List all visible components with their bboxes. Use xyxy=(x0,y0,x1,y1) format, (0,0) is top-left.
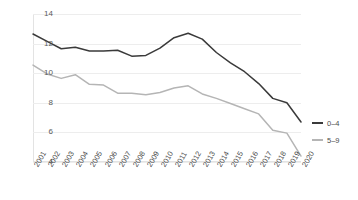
legend-item[interactable]: 0–4 xyxy=(312,118,358,128)
plot-area xyxy=(33,14,301,162)
legend-item[interactable]: 5–9 xyxy=(312,135,358,145)
legend-label: 5–9 xyxy=(327,136,340,145)
y-tick-label: 12 xyxy=(27,40,53,48)
legend-swatch-icon xyxy=(312,122,323,124)
series-lines xyxy=(33,14,301,162)
x-axis-tick-labels: 2001200220032004200520062007200820092010… xyxy=(33,164,301,200)
x-tick-label: 2020 xyxy=(300,150,316,169)
legend-label: 0–4 xyxy=(327,119,340,128)
series-line-5-9 xyxy=(33,65,301,156)
series-line-0-4 xyxy=(33,33,301,122)
y-tick-label: 6 xyxy=(27,128,53,136)
line-chart: 141210864 200120022003200420052006200720… xyxy=(0,0,358,200)
y-tick-label: 14 xyxy=(27,10,53,18)
legend-swatch-icon xyxy=(312,139,323,141)
legend: 0–45–9 xyxy=(312,118,358,152)
y-tick-label: 8 xyxy=(27,99,53,107)
y-tick-label: 10 xyxy=(27,69,53,77)
